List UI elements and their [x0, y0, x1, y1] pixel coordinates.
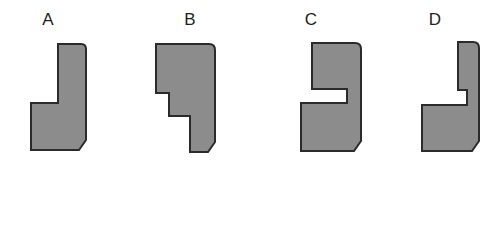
option-label-c: C: [296, 11, 326, 28]
option-label-d: D: [420, 11, 450, 28]
shape-option-d: [416, 37, 486, 156]
option-label-a: A: [33, 11, 63, 28]
option-label-b: B: [175, 11, 205, 28]
shape-option-a: [27, 40, 89, 154]
shape-option-c: [293, 38, 369, 156]
shape-option-b: [152, 38, 222, 156]
answer-row: Answer: [0, 178, 504, 226]
question-figure: A B C D Answer: [0, 0, 504, 237]
